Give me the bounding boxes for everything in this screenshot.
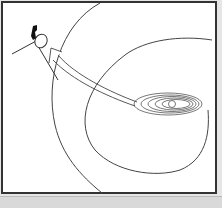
heliopause-curve — [52, 3, 102, 193]
trajectory-arrow — [49, 48, 137, 106]
solar-system-orbits — [134, 93, 202, 115]
heliosphere-diagram — [0, 0, 222, 208]
sun-icon — [169, 101, 176, 108]
